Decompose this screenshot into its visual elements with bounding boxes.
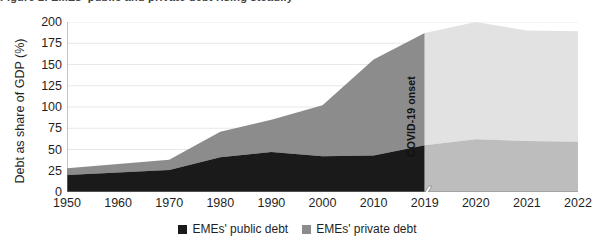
y-tick-label: 200 xyxy=(41,15,62,29)
y-tick-label: 100 xyxy=(41,100,62,114)
legend-item: EMEs' private debt xyxy=(302,222,416,236)
x-tick-label: 1950 xyxy=(53,196,81,210)
chart-legend: EMEs' public debtEMEs' private debt xyxy=(0,222,595,236)
y-tick-label: 50 xyxy=(48,143,62,157)
y-tick-label: 25 xyxy=(48,164,62,178)
legend-label: EMEs' public debt xyxy=(192,222,288,236)
y-tick-label: 175 xyxy=(41,36,62,50)
figure-title: Figure 2. EMEs' public and private debt … xyxy=(0,0,595,3)
stacked-area-svg xyxy=(67,22,578,192)
covid-onset-annotation: COVID-19 onset xyxy=(405,76,417,157)
x-tick-label: 1970 xyxy=(155,196,183,210)
legend-item: EMEs' public debt xyxy=(178,222,288,236)
x-tick-label: 2019 xyxy=(411,196,439,210)
area-public-debt-projection xyxy=(425,139,578,192)
legend-swatch-icon xyxy=(302,225,311,234)
area-private-debt-historical xyxy=(67,33,425,175)
x-tick-label: 2010 xyxy=(360,196,388,210)
x-tick-label: 1960 xyxy=(104,196,132,210)
plot-area xyxy=(67,22,578,192)
area-private-debt-projection xyxy=(425,22,578,145)
x-tick-label: 1990 xyxy=(257,196,285,210)
x-tick-label: 2022 xyxy=(564,196,592,210)
x-tick-label: 2020 xyxy=(462,196,490,210)
x-tick-label: 2021 xyxy=(513,196,541,210)
legend-swatch-icon xyxy=(178,225,187,234)
x-tick-label: 2000 xyxy=(309,196,337,210)
y-tick-label: 75 xyxy=(48,121,62,135)
y-tick-label: 150 xyxy=(41,58,62,72)
y-tick-label: 125 xyxy=(41,79,62,93)
legend-label: EMEs' private debt xyxy=(316,222,416,236)
chart-figure: Figure 2. EMEs' public and private debt … xyxy=(0,0,595,242)
x-tick-label: 1980 xyxy=(206,196,234,210)
